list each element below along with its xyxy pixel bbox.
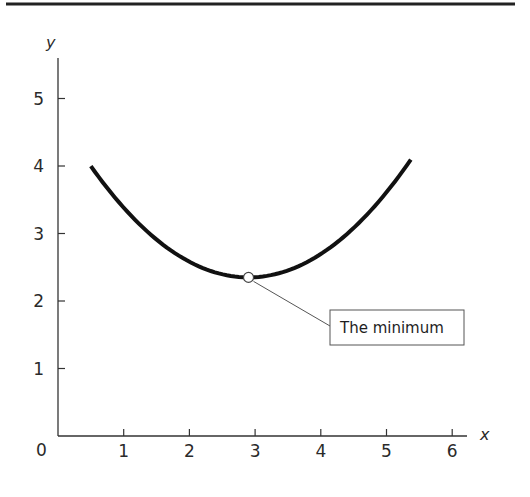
annotation-leader-line (254, 281, 330, 326)
x-tick-label: 6 (447, 441, 458, 461)
x-axis-label: x (479, 425, 490, 444)
annotation-text: The minimum (339, 319, 444, 337)
chart: 12345612345 y x 0 The minimum (0, 0, 530, 497)
x-tick-label: 4 (315, 441, 326, 461)
minimum-marker (244, 272, 254, 282)
y-tick-label: 3 (33, 224, 44, 244)
x-tick-label: 1 (118, 441, 129, 461)
y-tick-label: 5 (33, 89, 44, 109)
curve-line (91, 160, 411, 278)
x-tick-label: 2 (184, 441, 195, 461)
y-tick-label: 4 (33, 156, 44, 176)
y-tick-label: 1 (33, 359, 44, 379)
axes (58, 58, 467, 436)
y-tick-label: 2 (33, 291, 44, 311)
x-tick-label: 3 (250, 441, 261, 461)
annotation-box: The minimum (330, 310, 464, 345)
origin-label: 0 (36, 440, 47, 460)
x-tick-label: 5 (381, 441, 392, 461)
y-axis-label: y (45, 33, 56, 52)
